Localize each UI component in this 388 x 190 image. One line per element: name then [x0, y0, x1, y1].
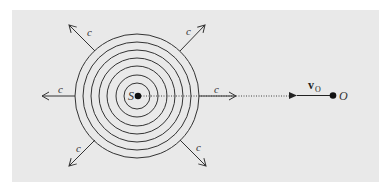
observer-dot [330, 92, 337, 99]
label-c-up-right: c [186, 25, 191, 37]
label-c-left: c [58, 83, 63, 95]
arrow-up-right [180, 25, 205, 51]
source-dot [135, 93, 142, 100]
label-c-down-right: c [196, 141, 201, 153]
label-c-right: c [214, 83, 219, 95]
doppler-diagram: S O c c c c c c v O [0, 0, 388, 190]
label-c-up-left: c [87, 26, 92, 38]
source-label: S [128, 89, 134, 103]
arrow-down-left [69, 140, 95, 166]
label-c-down-left: c [76, 142, 81, 154]
arrow-down-right [180, 140, 206, 166]
velocity-subscript: O [315, 85, 321, 94]
observer-label: O [339, 89, 348, 103]
velocity-label: v [308, 78, 314, 92]
